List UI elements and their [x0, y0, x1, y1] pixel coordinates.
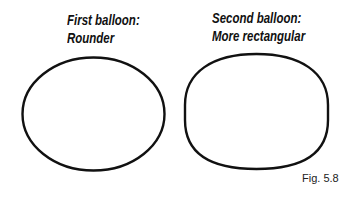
- second-balloon-more-rectangular: [185, 54, 328, 169]
- balloon-shapes: [0, 0, 352, 199]
- first-balloon-rounder: [23, 58, 165, 171]
- figure-label: Fig. 5.8: [302, 172, 339, 184]
